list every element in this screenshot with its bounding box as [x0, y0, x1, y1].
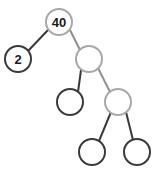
tree-node-leaf-right[interactable] [124, 139, 150, 165]
node-circle-right[interactable] [76, 46, 102, 72]
edge-right-right-to-leaf-right [126, 112, 133, 140]
tree-node-leaf-left[interactable] [79, 139, 105, 165]
edge-right-to-right-right [98, 68, 110, 92]
tree-node-left[interactable]: 2 [5, 46, 31, 72]
edge-right-to-right-left [78, 70, 81, 92]
edge-group [28, 30, 133, 141]
tree-node-right[interactable] [76, 46, 102, 72]
tree-node-right-left[interactable] [57, 89, 83, 115]
node-circle-leaf-right[interactable] [124, 139, 150, 165]
node-circle-right-right[interactable] [105, 89, 131, 115]
tree-canvas: 40 2 [0, 0, 153, 174]
tree-node-right-right[interactable] [105, 89, 131, 115]
node-circle-left[interactable] [5, 46, 31, 72]
node-circle-root[interactable] [46, 9, 72, 35]
node-circle-leaf-left[interactable] [79, 139, 105, 165]
edge-right-right-to-leaf-left [99, 112, 111, 141]
binary-tree-figure: 40 2 [0, 0, 153, 174]
edge-root-to-right [70, 30, 80, 50]
node-group: 40 2 [5, 9, 150, 165]
node-circle-right-left[interactable] [57, 89, 83, 115]
edge-root-to-left [28, 30, 48, 51]
tree-node-root[interactable]: 40 [46, 9, 72, 35]
